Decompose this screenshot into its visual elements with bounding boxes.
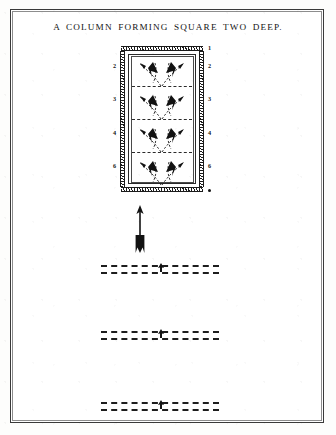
movement-arrow-svg — [131, 90, 193, 120]
diagram-page: A COLUMN FORMING SQUARE TWO DEEP. — [0, 0, 336, 435]
column-arrow-icon — [126, 205, 154, 257]
position-label-left-3: 3 — [113, 96, 116, 102]
page-title: A COLUMN FORMING SQUARE TWO DEEP. — [0, 22, 336, 32]
formation-face-right — [199, 51, 204, 187]
position-label-left-2: 2 — [113, 63, 116, 69]
arrow-up-icon — [156, 400, 166, 410]
movement-arrow-svg — [131, 156, 193, 186]
position-label-right-2: 2 — [208, 63, 211, 69]
movement-arrow-pair — [131, 123, 193, 153]
line-formation-1 — [101, 259, 219, 281]
formation-center-arrow — [156, 259, 166, 269]
movement-arrow-svg — [131, 123, 193, 153]
movement-arrow-pair — [131, 90, 193, 120]
position-label-left-4: 4 — [113, 130, 116, 136]
position-label-right-3: 3 — [208, 96, 211, 102]
formation-face-top — [121, 46, 203, 51]
square-formation — [120, 46, 204, 192]
position-label-left-6: 6 — [113, 163, 116, 169]
arrow-up-icon — [156, 263, 166, 273]
column-direction-arrow — [126, 205, 154, 257]
formation-center-arrow — [156, 325, 166, 335]
corner-dot-marker — [208, 189, 211, 192]
position-label-right-4: 4 — [208, 130, 211, 136]
formation-center-arrow — [156, 396, 166, 406]
formation-face-bottom — [121, 187, 203, 192]
movement-arrow-pair — [131, 156, 193, 186]
arrow-up-icon — [156, 329, 166, 339]
line-formation-3 — [101, 396, 219, 418]
line-formation-2 — [101, 325, 219, 347]
position-label-right-1: 1 — [208, 45, 211, 51]
movement-arrow-pair — [131, 57, 193, 87]
formation-face-left — [120, 51, 125, 187]
movement-arrow-svg — [131, 57, 193, 87]
position-label-right-6: 6 — [208, 163, 211, 169]
